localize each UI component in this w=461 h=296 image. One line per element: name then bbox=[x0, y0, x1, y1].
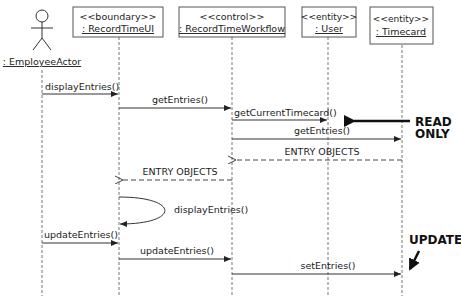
stereotype-entity: <<entity>> bbox=[373, 14, 429, 24]
return-label: ENTRY OBJECTS bbox=[143, 166, 218, 177]
message-label: displayEntries() bbox=[174, 204, 248, 215]
participant-name: : Timecard bbox=[376, 26, 426, 37]
update-pointer-arrow bbox=[410, 251, 419, 269]
annotation-read-only-line2: ONLY bbox=[415, 127, 450, 141]
participant-timecard: <<entity>> : Timecard bbox=[370, 7, 433, 44]
self-message-arrow bbox=[119, 197, 165, 224]
participant-name: : RecordTimeUI bbox=[82, 23, 154, 34]
stereotype-control: <<control>> bbox=[200, 11, 265, 22]
message-label: getEntries() bbox=[294, 125, 350, 136]
participant-record-time-workflow: <<control>> : RecordTimeWorkflow bbox=[179, 7, 285, 37]
message-label: getCurrentTimecard() bbox=[234, 107, 337, 118]
message-label: updateEntries() bbox=[44, 229, 118, 240]
participant-name-employee-actor: : EmployeeActor bbox=[3, 56, 81, 67]
actor-stick-figure-icon bbox=[31, 10, 53, 50]
sequence-diagram: : EmployeeActor <<boundary>> : RecordTim… bbox=[0, 0, 461, 296]
message-label: getEntries() bbox=[152, 94, 208, 105]
return-label: ENTRY OBJECTS bbox=[285, 146, 360, 157]
stereotype-boundary: <<boundary>> bbox=[79, 11, 156, 22]
message-label: updateEntries() bbox=[140, 245, 214, 256]
participant-record-time-ui: <<boundary>> : RecordTimeUI bbox=[73, 7, 163, 37]
participant-name: : User bbox=[315, 23, 343, 34]
participant-user: <<entity>> : User bbox=[301, 7, 357, 37]
message-label: setEntries() bbox=[300, 260, 355, 271]
participant-name: : RecordTimeWorkflow bbox=[179, 23, 285, 34]
message-label: displayEntries() bbox=[45, 81, 119, 92]
stereotype-entity: <<entity>> bbox=[301, 12, 357, 22]
annotation-update: UPDATE bbox=[409, 233, 461, 247]
